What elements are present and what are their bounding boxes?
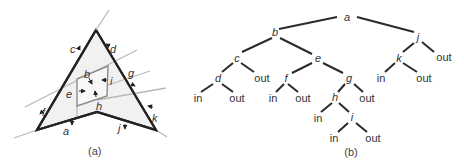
edge-a-j	[357, 17, 414, 32]
edge-j-k	[403, 43, 414, 52]
label-b: b	[84, 68, 90, 80]
edge-h-i	[339, 103, 349, 112]
tree-leaf-d-in: in	[194, 92, 203, 104]
label-h: h	[96, 100, 102, 112]
edge-i-out	[356, 123, 367, 132]
tree-leaf-f-in: in	[269, 92, 278, 104]
tree-node-f: f	[284, 72, 288, 84]
tree-node-i: i	[351, 111, 354, 123]
edge-h-in	[321, 103, 332, 112]
edge-c-out	[241, 63, 254, 72]
plane-line-a	[14, 130, 37, 138]
edge-a-b	[279, 17, 337, 29]
tree-leaf-i-in: in	[330, 132, 339, 144]
tree-leaf-k-in: in	[377, 72, 386, 84]
tree-leaf-d-out: out	[229, 92, 244, 104]
normal-arrow-c	[78, 46, 80, 50]
tree-leaf-h-in: in	[314, 112, 323, 124]
panel-b-bsp-tree: a b j c e k out d out f g in out in out …	[194, 11, 452, 158]
label-d: d	[110, 43, 117, 55]
edge-k-in	[385, 63, 395, 72]
edge-f-in	[276, 84, 284, 92]
edge-e-f	[292, 63, 312, 73]
normal-arrow-k	[148, 106, 153, 107]
tree-node-e: e	[315, 52, 321, 64]
tree-leaf-f-out: out	[295, 92, 310, 104]
label-a: a	[63, 125, 69, 137]
edge-j-out	[422, 42, 434, 52]
tree-node-j: j	[415, 31, 420, 43]
tree-node-d: d	[215, 72, 222, 84]
panel-a-polygon-partition: f c d b i g e h k a j (a)	[14, 10, 167, 157]
edge-d-out	[222, 84, 233, 92]
label-c: c	[70, 43, 76, 55]
label-k: k	[152, 112, 158, 124]
caption-b: (b)	[344, 146, 357, 158]
edge-b-c	[242, 38, 272, 52]
label-e: e	[66, 88, 72, 100]
tree-node-a: a	[344, 11, 350, 23]
edge-f-out	[288, 84, 298, 92]
plane-line-d	[96, 10, 109, 30]
tree-leaf-i-out: out	[365, 132, 380, 144]
edge-e-g	[323, 63, 343, 73]
normal-arrow-g	[131, 84, 135, 86]
edge-i-in	[338, 123, 348, 132]
tree-leaf-j-out: out	[436, 51, 451, 63]
edge-c-d	[222, 63, 233, 72]
tree-node-k: k	[396, 52, 402, 64]
edge-g-out	[354, 84, 363, 92]
label-j: j	[116, 122, 121, 134]
bsp-figure: f c d b i g e h k a j (a)	[0, 0, 464, 165]
edge-k-out	[403, 63, 417, 72]
edge-g-h	[338, 84, 345, 92]
label-g: g	[128, 67, 135, 79]
tree-node-g: g	[346, 72, 353, 84]
tree-leaf-g-out: out	[359, 92, 374, 104]
edge-d-in	[201, 84, 213, 92]
tree-node-c: c	[234, 52, 240, 64]
tree-leaf-k-out: out	[416, 72, 431, 84]
tree-leaf-c-out: out	[254, 72, 269, 84]
edge-b-e	[280, 38, 312, 54]
caption-a: (a)	[88, 145, 101, 157]
tree-node-h: h	[332, 91, 338, 103]
tree-node-b: b	[272, 26, 278, 38]
